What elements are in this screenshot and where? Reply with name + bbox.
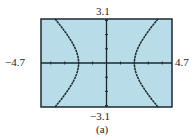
calculator-screen-plot	[0, 0, 193, 140]
